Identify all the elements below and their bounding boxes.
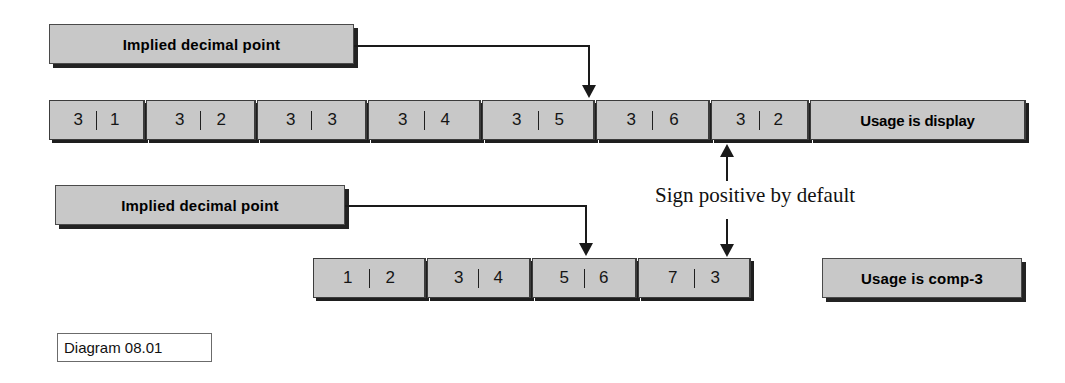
caption-text: Diagram 08.01 bbox=[64, 339, 162, 356]
digit-left: 3 bbox=[612, 110, 650, 130]
digit-right: 2 bbox=[203, 110, 239, 130]
connector-vertical-sign-comp3 bbox=[726, 219, 728, 246]
digit-separator bbox=[311, 111, 312, 130]
connector-vertical-top bbox=[588, 45, 590, 87]
digit-right: 6 bbox=[587, 268, 622, 288]
digit-separator bbox=[694, 269, 695, 288]
digit-separator bbox=[424, 111, 425, 130]
callout-label: Implied decimal point bbox=[121, 197, 279, 214]
arrowhead-down-bottom bbox=[579, 243, 593, 256]
digit-cell: 5 6 bbox=[532, 258, 637, 298]
digit-left: 3 bbox=[498, 110, 535, 130]
digit-separator bbox=[538, 111, 539, 130]
digit-left: 3 bbox=[273, 110, 309, 130]
digit-separator bbox=[96, 111, 97, 130]
annotation-text: Sign positive by default bbox=[655, 183, 855, 207]
digit-pair: 3 3 bbox=[258, 110, 365, 130]
digit-right: 4 bbox=[481, 268, 515, 288]
usage-label: Usage is comp-3 bbox=[861, 270, 983, 287]
connector-horizontal-bottom bbox=[345, 205, 587, 207]
diagram-caption: Diagram 08.01 bbox=[57, 333, 212, 362]
arrowhead-down-sign-comp3 bbox=[720, 244, 734, 257]
arrowhead-down-top bbox=[582, 85, 596, 98]
digit-separator bbox=[478, 269, 479, 288]
digit-cell-sign: 7 3 bbox=[638, 258, 751, 298]
sign-positive-annotation: Sign positive by default bbox=[655, 183, 855, 208]
digit-right: 6 bbox=[655, 110, 693, 130]
comp3-digit-row: 1 2 3 4 5 6 7 3 bbox=[313, 258, 751, 298]
digit-cell: 1 2 bbox=[313, 258, 426, 298]
digit-right: 2 bbox=[372, 268, 409, 288]
connector-horizontal-top bbox=[354, 45, 590, 47]
callout-label: Implied decimal point bbox=[123, 36, 281, 53]
digit-cell: 3 2 bbox=[146, 100, 256, 140]
diagram-canvas: Implied decimal point 3 1 3 2 3 3 bbox=[0, 0, 1065, 383]
digit-pair: 3 4 bbox=[428, 268, 529, 288]
digit-separator bbox=[652, 111, 653, 130]
digit-left: 3 bbox=[162, 110, 198, 130]
digit-right: 3 bbox=[697, 268, 734, 288]
digit-left: 3 bbox=[62, 110, 94, 130]
digit-pair: 1 2 bbox=[314, 268, 424, 288]
digit-right: 3 bbox=[314, 110, 350, 130]
arrowhead-up-sign-display bbox=[720, 144, 734, 157]
usage-display-label-cell: Usage is display bbox=[810, 100, 1026, 140]
digit-pair: 3 1 bbox=[50, 110, 143, 130]
digit-pair: 3 2 bbox=[712, 110, 807, 130]
digit-cell: 3 3 bbox=[257, 100, 367, 140]
connector-vertical-sign-display bbox=[726, 155, 728, 181]
digit-separator bbox=[584, 269, 585, 288]
digit-cell: 3 5 bbox=[482, 100, 595, 140]
digit-left: 7 bbox=[654, 268, 691, 288]
digit-left: 3 bbox=[442, 268, 476, 288]
digit-pair: 3 2 bbox=[147, 110, 254, 130]
usage-label: Usage is display bbox=[860, 112, 974, 129]
digit-separator bbox=[200, 111, 201, 130]
digit-separator bbox=[759, 111, 760, 130]
digit-pair: 3 4 bbox=[369, 110, 479, 130]
digit-right: 2 bbox=[762, 110, 794, 130]
digit-left: 3 bbox=[384, 110, 421, 130]
digit-left: 5 bbox=[547, 268, 582, 288]
digit-separator bbox=[369, 269, 370, 288]
digit-right: 4 bbox=[427, 110, 464, 130]
digit-cell: 3 6 bbox=[596, 100, 710, 140]
display-digit-row: 3 1 3 2 3 3 3 4 bbox=[49, 100, 1026, 140]
digit-left: 3 bbox=[725, 110, 757, 130]
digit-right: 5 bbox=[541, 110, 578, 130]
digit-cell: 3 4 bbox=[427, 258, 531, 298]
digit-cell-sign: 3 2 bbox=[711, 100, 809, 140]
digit-pair: 3 6 bbox=[597, 110, 708, 130]
connector-vertical-bottom bbox=[585, 205, 587, 245]
callout-implied-decimal-point-bottom: Implied decimal point bbox=[55, 185, 345, 225]
digit-left: 1 bbox=[329, 268, 366, 288]
usage-comp3-label-box: Usage is comp-3 bbox=[822, 258, 1022, 298]
digit-cell: 3 1 bbox=[49, 100, 145, 140]
digit-pair: 5 6 bbox=[533, 268, 635, 288]
digit-pair: 3 5 bbox=[483, 110, 593, 130]
callout-implied-decimal-point-top: Implied decimal point bbox=[49, 24, 354, 64]
digit-right: 1 bbox=[99, 110, 131, 130]
digit-cell: 3 4 bbox=[368, 100, 481, 140]
digit-pair: 7 3 bbox=[639, 268, 749, 288]
